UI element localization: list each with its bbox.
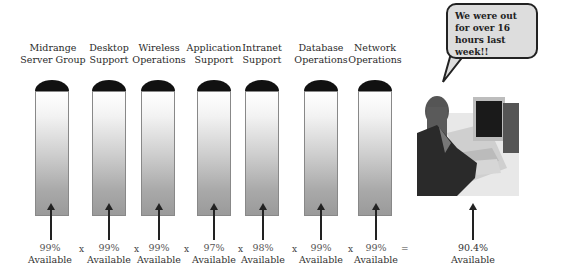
- dome-icon: [141, 80, 175, 91]
- availability-application: 97%Available: [192, 242, 236, 266]
- tube-body: [92, 91, 126, 216]
- group-label-midrange: Midrange Server Group: [18, 42, 88, 66]
- tube-body: [141, 91, 175, 216]
- person-at-computer-icon: [417, 93, 519, 196]
- tube-application: [197, 80, 231, 215]
- percent-value: 99%: [299, 242, 343, 254]
- label-line: Midrange: [18, 42, 88, 54]
- tube-desktop: [92, 80, 126, 215]
- percent-value: 99%: [28, 242, 72, 254]
- dome-icon: [35, 80, 69, 91]
- multiply-sign: x: [292, 244, 297, 254]
- multiply-sign: x: [184, 244, 189, 254]
- label-line: Support: [240, 54, 284, 66]
- tube-network: [358, 80, 392, 215]
- percent-value: 99%: [137, 242, 181, 254]
- tube-wireless: [141, 80, 175, 215]
- label-line: Network: [345, 42, 405, 54]
- tube-body: [197, 91, 231, 216]
- availability-network: 99%Available: [354, 242, 398, 266]
- label-line: Operations: [345, 54, 405, 66]
- multiply-sign: x: [79, 244, 84, 254]
- available-label: Available: [354, 254, 398, 266]
- label-line: Wireless: [132, 42, 186, 54]
- group-label-intranet: Intranet Support: [240, 42, 284, 66]
- equals-sign: =: [401, 244, 409, 254]
- percent-value: 99%: [354, 242, 398, 254]
- dome-icon: [358, 80, 392, 91]
- tube-body: [358, 91, 392, 216]
- group-label-application: Application Support: [184, 42, 244, 66]
- availability-midrange: 99%Available: [28, 242, 72, 266]
- label-line: Desktop: [84, 42, 134, 54]
- available-label: Available: [241, 254, 285, 266]
- tube-body: [245, 91, 279, 216]
- dome-icon: [245, 80, 279, 91]
- bubble-line: We were out: [455, 10, 535, 22]
- bubble-line: for over 16: [455, 22, 535, 34]
- percent-value: 98%: [241, 242, 285, 254]
- tube-database: [304, 80, 338, 215]
- percent-value: 90.4%: [450, 242, 496, 254]
- label-line: Support: [184, 54, 244, 66]
- dome-icon: [304, 80, 338, 91]
- tube-midrange: [35, 80, 69, 215]
- multiply-sign: x: [348, 244, 353, 254]
- availability-desktop: 99%Available: [87, 242, 131, 266]
- availability-wireless: 99%Available: [137, 242, 181, 266]
- percent-value: 99%: [87, 242, 131, 254]
- label-line: Application: [184, 42, 244, 54]
- label-line: Support: [84, 54, 134, 66]
- bubble-line: hours last week!!: [455, 34, 535, 58]
- label-line: Intranet: [240, 42, 284, 54]
- dome-icon: [197, 80, 231, 91]
- tube-body: [304, 91, 338, 216]
- group-label-database: Database Operations: [291, 42, 351, 66]
- availability-intranet: 98%Available: [241, 242, 285, 266]
- group-label-wireless: Wireless Operations: [132, 42, 186, 66]
- available-label: Available: [87, 254, 131, 266]
- dome-icon: [92, 80, 126, 91]
- available-label: Available: [450, 254, 496, 266]
- label-line: Server Group: [18, 54, 88, 66]
- label-line: Operations: [291, 54, 351, 66]
- tube-body: [35, 91, 69, 216]
- group-label-desktop: Desktop Support: [84, 42, 134, 66]
- availability-result: 90.4%Available: [450, 242, 496, 266]
- availability-database: 99%Available: [299, 242, 343, 266]
- percent-value: 97%: [192, 242, 236, 254]
- label-line: Operations: [132, 54, 186, 66]
- available-label: Available: [192, 254, 236, 266]
- label-line: Database: [291, 42, 351, 54]
- tube-intranet: [245, 80, 279, 215]
- available-label: Available: [137, 254, 181, 266]
- available-label: Available: [28, 254, 72, 266]
- group-label-network: Network Operations: [345, 42, 405, 66]
- available-label: Available: [299, 254, 343, 266]
